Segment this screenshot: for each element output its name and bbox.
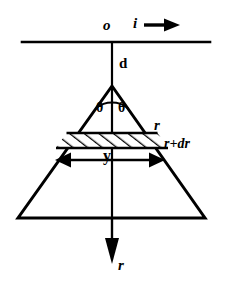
physics-diagram-figure: o i d θ θ r r+dr y r bbox=[0, 0, 228, 288]
radial-direction-arrow bbox=[105, 218, 119, 264]
label-current: i bbox=[133, 16, 137, 31]
label-origin: o bbox=[103, 18, 111, 33]
current-direction-arrow bbox=[144, 19, 180, 32]
label-radial-axis: r bbox=[118, 258, 124, 273]
label-halfwidth: y bbox=[103, 148, 111, 164]
label-angle-left: θ bbox=[96, 101, 103, 115]
diagram-canvas bbox=[0, 0, 228, 288]
label-angle-right: θ bbox=[118, 101, 125, 115]
label-distance: d bbox=[119, 56, 127, 71]
label-radius: r bbox=[154, 118, 160, 133]
label-radius-plus-dr: r+dr bbox=[164, 137, 190, 151]
